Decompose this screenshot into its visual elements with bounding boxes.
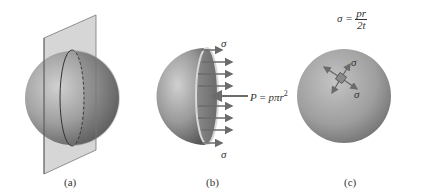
panel-a-sphere-with-plane [25,15,120,174]
hoop-stress-equation: σ = pr2t [337,8,367,31]
sigma-upper-c: σ [351,56,356,68]
sigma-top-b: σ [221,37,226,49]
panel-c-sphere [297,49,391,143]
caption-b: (b) [206,176,219,188]
panel-b-hemisphere [157,48,248,145]
force-equation: P = pπr2 [250,89,288,103]
sigma-lower-c: σ [354,88,359,100]
sphere [297,49,391,143]
sigma-bottom-b: σ [221,148,226,160]
caption-a: (a) [64,176,76,188]
caption-c: (c) [344,176,356,188]
